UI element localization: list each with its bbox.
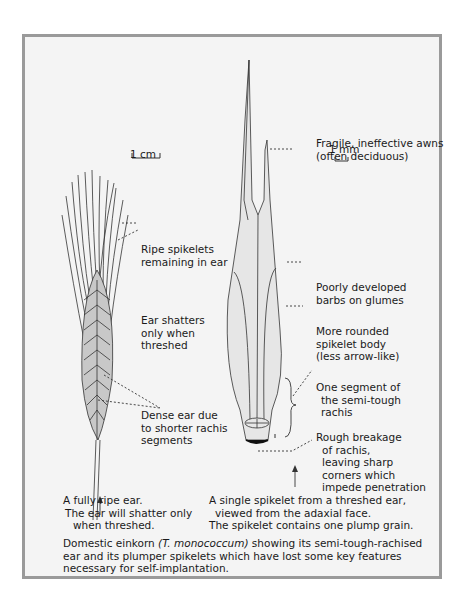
einkorn-ear-drawing	[62, 170, 128, 520]
label-ear-shatters: Ear shattersonly whenthreshed	[141, 289, 205, 364]
label-awns: Fragile, ineffective awns(often deciduou…	[316, 112, 443, 175]
scale-label-cm: 1 cm	[130, 148, 156, 161]
figure-caption: Domestic einkorn (T. monococcum) showing…	[63, 537, 433, 575]
rachis-bracket	[285, 378, 296, 437]
spikelet-drawing	[227, 60, 281, 443]
label-rough-breakage: Rough breakageof rachis,leaving sharpcor…	[316, 406, 426, 506]
species-name: (T. monococcum)	[158, 537, 248, 549]
label-dense-ear: Dense ear dueto shorter rachissegments	[141, 384, 228, 459]
caption-ripe-ear: A fully ripe ear. The ear will shatter o…	[63, 494, 192, 532]
label-ripe-spikelets: Ripe spikeletsremaining in ear	[141, 218, 227, 281]
caption-spikelet: A single spikelet from a threshed ear, v…	[209, 494, 413, 532]
